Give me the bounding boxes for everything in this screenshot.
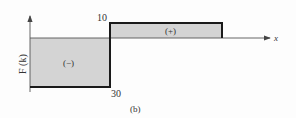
shear-force-diagram: 10 30 (−) (+) x F (k) (b) — [0, 0, 296, 118]
negative-sign-label: (−) — [63, 58, 74, 68]
value-label-10: 10 — [97, 12, 107, 23]
y-axis-label: F (k) — [17, 54, 29, 74]
x-axis-label: x — [273, 33, 278, 43]
diagram-svg: 10 30 (−) (+) x F (k) (b) — [0, 0, 296, 118]
positive-sign-label: (+) — [165, 26, 176, 36]
value-label-30: 30 — [111, 88, 121, 99]
figure-caption: (b) — [130, 104, 141, 114]
